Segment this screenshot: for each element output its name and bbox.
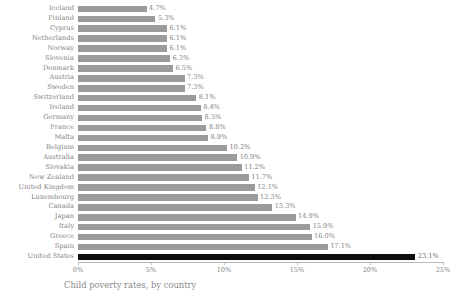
bar-track: 6.1% <box>78 44 443 54</box>
bar-track: 12.1% <box>78 183 443 193</box>
bar-value-label: 8.5% <box>202 113 221 123</box>
bar <box>78 135 208 142</box>
category-label: Japan <box>0 212 74 222</box>
bar <box>78 45 167 52</box>
bar <box>78 164 242 171</box>
bar-track: 8.5% <box>78 113 443 123</box>
bar-track: 6.1% <box>78 34 443 44</box>
category-label: Italy <box>0 222 74 232</box>
category-label: Sweden <box>0 83 74 93</box>
bar-value-label: 12.3% <box>258 193 281 203</box>
bar-row: Greece16.0% <box>0 232 447 242</box>
bar-value-label: 15.9% <box>310 222 333 232</box>
category-label: United Kingdom <box>0 183 74 193</box>
bar-value-label: 6.1% <box>167 44 186 54</box>
bar <box>78 254 415 261</box>
x-tick-label: 0% <box>73 266 83 274</box>
category-label: Luxembourg <box>0 193 74 203</box>
bar-row: United States23.1% <box>0 252 447 262</box>
bar-row: Slovenia6.3% <box>0 54 447 64</box>
bar-value-label: 17.1% <box>328 242 351 252</box>
category-label: Germany <box>0 113 74 123</box>
bar-track: 10.9% <box>78 153 443 163</box>
category-label: Ireland <box>0 103 74 113</box>
bar-value-label: 8.8% <box>206 123 225 133</box>
bar-track: 16.0% <box>78 232 443 242</box>
x-tick-label: 20% <box>363 266 378 274</box>
bar-value-label: 12.1% <box>255 183 278 193</box>
bar-value-label: 11.2% <box>242 163 265 173</box>
bar-track: 15.9% <box>78 222 443 232</box>
bar <box>78 125 206 132</box>
bar-value-label: 11.7% <box>249 173 272 183</box>
category-label: New Zealand <box>0 173 74 183</box>
bar-value-label: 13.3% <box>272 202 295 212</box>
bar-row: Finland5.3% <box>0 14 447 24</box>
bar-row: Italy15.9% <box>0 222 447 232</box>
bar-value-label: 16.0% <box>312 232 335 242</box>
category-label: Slovakia <box>0 163 74 173</box>
bar-row: New Zealand11.7% <box>0 173 447 183</box>
bar-track: 4.7% <box>78 4 443 14</box>
x-axis-ticks: 0%5%10%15%20%25% <box>78 262 443 276</box>
category-label: United States <box>0 252 74 262</box>
category-label: Cyprus <box>0 24 74 34</box>
chart-caption-text: Child poverty rates, by country <box>64 281 196 290</box>
bar-track: 6.1% <box>78 24 443 34</box>
bar-track: 5.3% <box>78 14 443 24</box>
bar-track: 12.3% <box>78 193 443 203</box>
bar-row: Japan14.9% <box>0 212 447 222</box>
bar <box>78 154 237 161</box>
x-tick-label: 25% <box>436 266 450 274</box>
category-label: Denmark <box>0 64 74 74</box>
category-label: Norway <box>0 44 74 54</box>
bar-value-label: 6.1% <box>167 34 186 44</box>
category-label: Greece <box>0 232 74 242</box>
bar-track: 8.4% <box>78 103 443 113</box>
bar-value-label: 4.7% <box>147 4 166 14</box>
bar-value-label: 6.5% <box>173 64 192 74</box>
bar-track: 10.2% <box>78 143 443 153</box>
category-label: Netherlands <box>0 34 74 44</box>
bar-row: Malta8.9% <box>0 133 447 143</box>
category-label: Malta <box>0 133 74 143</box>
bar <box>78 115 202 122</box>
category-label: Switzerland <box>0 93 74 103</box>
bar <box>78 244 328 251</box>
category-label: France <box>0 123 74 133</box>
bar-row: Germany8.5% <box>0 113 447 123</box>
bar-value-label: 6.1% <box>167 24 186 34</box>
category-label: Austria <box>0 73 74 83</box>
bar-track: 8.9% <box>78 133 443 143</box>
bar-value-label: 14.9% <box>296 212 319 222</box>
bar <box>78 6 147 13</box>
bar-value-label: 10.2% <box>227 143 250 153</box>
x-tick-mark <box>443 262 444 265</box>
x-tick-label: 15% <box>290 266 305 274</box>
bar <box>78 55 170 62</box>
bar-row: Ireland8.4% <box>0 103 447 113</box>
bar-row: France8.8% <box>0 123 447 133</box>
bar <box>78 35 167 42</box>
bar <box>78 214 296 221</box>
bar <box>78 75 185 82</box>
bar-value-label: 8.1% <box>196 93 215 103</box>
bar-track: 7.3% <box>78 73 443 83</box>
chart-caption: Child poverty rates, by country <box>0 281 447 290</box>
category-label: Australia <box>0 153 74 163</box>
bar-track: 13.3% <box>78 202 443 212</box>
bar-row: Sweden7.3% <box>0 83 447 93</box>
bar <box>78 65 173 72</box>
bar-row: Iceland4.7% <box>0 4 447 14</box>
bar-row: Luxembourg12.3% <box>0 193 447 203</box>
bar-row: Netherlands6.1% <box>0 34 447 44</box>
x-tick-label: 5% <box>146 266 156 274</box>
bar-track: 11.2% <box>78 163 443 173</box>
bar-row: Canada13.3% <box>0 202 447 212</box>
bar-value-label: 5.3% <box>155 14 174 24</box>
category-label: Slovenia <box>0 54 74 64</box>
bar <box>78 16 155 23</box>
bar-value-label: 23.1% <box>415 252 438 262</box>
bar-value-label: 8.4% <box>201 103 220 113</box>
